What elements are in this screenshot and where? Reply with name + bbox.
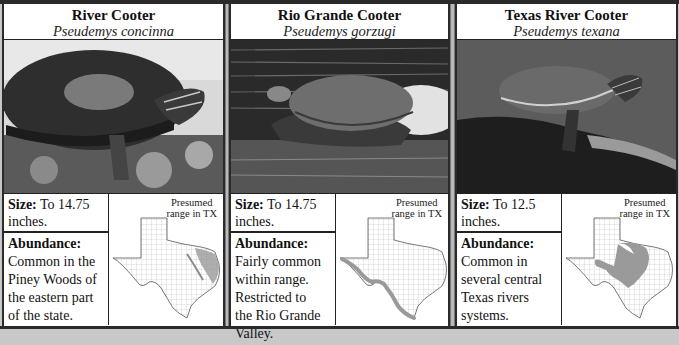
abundance-line: the Rio Grande bbox=[235, 307, 331, 325]
abundance-box: Abundance: Common in the Piney Woods of … bbox=[4, 233, 108, 327]
texas-river-cooter-photo-icon bbox=[457, 40, 676, 193]
texas-range-map-icon bbox=[564, 214, 676, 322]
panel-header: Rio Grande Cooter Pseudemys gorzugi bbox=[231, 4, 448, 40]
common-name: Texas River Cooter bbox=[457, 7, 676, 23]
abundance-line: Texas rivers bbox=[461, 289, 557, 307]
river-cooter-photo-icon bbox=[4, 40, 223, 193]
size-label: Size: bbox=[8, 197, 37, 212]
info-section: Size: To 14.75 inches. Abundance: Common… bbox=[4, 194, 223, 325]
abundance-line: systems. bbox=[461, 307, 557, 325]
text-column: Size: To 12.5 inches. Abundance: Common … bbox=[457, 194, 562, 325]
scientific-name: Pseudemys gorzugi bbox=[231, 23, 448, 39]
scientific-name: Pseudemys texana bbox=[457, 23, 676, 39]
species-panel-rio-grande-cooter: Rio Grande Cooter Pseudemys gorzugi Size… bbox=[229, 4, 450, 326]
species-panel-texas-river-cooter: Texas River Cooter Pseudemys texana Size… bbox=[455, 4, 678, 326]
scientific-name: Pseudemys concinna bbox=[4, 23, 223, 39]
abundance-line: several central bbox=[461, 271, 557, 289]
turtle-photo bbox=[457, 40, 676, 194]
panel-header: Texas River Cooter Pseudemys texana bbox=[457, 4, 676, 40]
common-name: River Cooter bbox=[4, 7, 223, 23]
abundance-line: Common in the bbox=[8, 253, 104, 271]
text-column: Size: To 14.75 inches. Abundance: Common… bbox=[4, 194, 109, 325]
species-panel-river-cooter: River Cooter Pseudemys concinna Size: To… bbox=[2, 4, 225, 326]
texas-range-map-icon bbox=[111, 214, 223, 322]
size-box: Size: To 12.5 inches. bbox=[457, 194, 561, 233]
bottom-rule bbox=[0, 326, 679, 329]
size-box: Size: To 14.75 inches. bbox=[4, 194, 108, 233]
abundance-line: within range. bbox=[235, 271, 331, 289]
abundance-line: Common in bbox=[461, 253, 557, 271]
range-map-column: Presumed range in TX bbox=[109, 194, 223, 325]
abundance-line: Piney Woods of bbox=[8, 271, 104, 289]
abundance-label: Abundance: bbox=[8, 235, 104, 253]
info-section: Size: To 14.75 inches. Abundance: Fairly… bbox=[231, 194, 448, 325]
range-map-column: Presumed range in TX bbox=[336, 194, 448, 325]
abundance-label: Abundance: bbox=[461, 235, 557, 253]
abundance-label: Abundance: bbox=[235, 235, 331, 253]
abundance-line: Fairly common bbox=[235, 253, 331, 271]
range-map-column: Presumed range in TX bbox=[562, 194, 676, 325]
abundance-line: of the state. bbox=[8, 307, 104, 325]
abundance-box: Abundance: Common in several central Tex… bbox=[457, 233, 561, 327]
turtle-photo bbox=[231, 40, 448, 194]
texas-range-map-icon bbox=[338, 214, 450, 322]
size-label: Size: bbox=[461, 197, 490, 212]
common-name: Rio Grande Cooter bbox=[231, 7, 448, 23]
abundance-line: the eastern part bbox=[8, 289, 104, 307]
size-box: Size: To 14.75 inches. bbox=[231, 194, 335, 233]
rio-grande-cooter-photo-icon bbox=[231, 40, 448, 193]
text-column: Size: To 14.75 inches. Abundance: Fairly… bbox=[231, 194, 336, 325]
info-section: Size: To 12.5 inches. Abundance: Common … bbox=[457, 194, 676, 325]
size-label: Size: bbox=[235, 197, 264, 212]
turtle-photo bbox=[4, 40, 223, 194]
panel-header: River Cooter Pseudemys concinna bbox=[4, 4, 223, 40]
abundance-line: Restricted to bbox=[235, 289, 331, 307]
